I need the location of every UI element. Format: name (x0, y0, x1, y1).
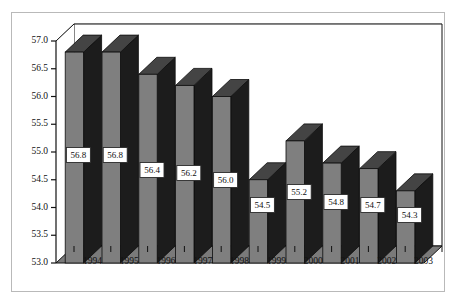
y-tick-label: 56.0 (31, 91, 48, 101)
data-label: 56.8 (66, 148, 90, 163)
figure-canvas: 53.053.554.054.555.055.556.056.557.0 199… (0, 0, 457, 305)
bar-chart: 53.053.554.054.555.055.556.056.557.0 199… (0, 0, 457, 305)
x-tick-label: 1998 (230, 256, 249, 266)
data-label: 56.8 (103, 148, 127, 163)
y-tick-label: 53.0 (31, 257, 48, 267)
y-tick-label: 54.5 (31, 174, 48, 184)
data-label: 54.8 (324, 195, 348, 210)
y-tick-label: 53.5 (31, 229, 48, 239)
data-label: 54.5 (250, 198, 274, 213)
data-label-text: 56.8 (107, 150, 123, 160)
y-tick-label: 57.0 (31, 35, 48, 45)
x-tick-label: 2001 (341, 256, 360, 266)
y-tick-label: 54.0 (31, 202, 48, 212)
chart-svg: 53.053.554.054.555.055.556.056.557.0 199… (0, 0, 457, 305)
data-label: 56.4 (140, 163, 164, 178)
data-label-text: 56.4 (144, 165, 160, 175)
x-tick-label: 2000 (304, 256, 323, 266)
bar-front-face[interactable] (396, 191, 414, 263)
data-label-text: 56.2 (181, 168, 197, 178)
data-label: 54.7 (361, 198, 385, 213)
data-label: 54.3 (398, 208, 422, 223)
y-axis-ticks: 53.053.554.054.555.055.556.056.557.0 (31, 35, 56, 267)
data-label-text: 54.5 (255, 200, 271, 210)
data-label-text: 54.3 (402, 210, 418, 220)
data-label-text: 56.8 (71, 150, 87, 160)
data-label-text: 55.2 (291, 187, 307, 197)
x-tick-label: 1996 (157, 256, 176, 266)
bar-group (212, 80, 248, 264)
bar-group (139, 57, 175, 263)
data-label-text: 54.8 (328, 197, 344, 207)
x-tick-label: 1995 (120, 256, 139, 266)
x-tick-label: 1994 (83, 256, 102, 266)
bar-side-face (157, 57, 175, 263)
x-tick-label: 2003 (414, 256, 433, 266)
y-tick-label: 55.5 (31, 118, 48, 128)
data-label: 55.2 (287, 185, 311, 200)
x-tick-label: 1999 (267, 256, 286, 266)
x-tick-label: 1997 (193, 256, 212, 266)
data-label-text: 54.7 (365, 200, 381, 210)
y-tick-label: 55.0 (31, 146, 48, 156)
data-label: 56.2 (177, 166, 201, 181)
bar-front-face[interactable] (286, 141, 304, 263)
x-tick-label: 2002 (377, 256, 396, 266)
data-label: 56.0 (214, 173, 238, 188)
data-label-text: 56.0 (218, 175, 234, 185)
bar-side-face (231, 80, 249, 264)
y-tick-label: 56.5 (31, 63, 48, 73)
